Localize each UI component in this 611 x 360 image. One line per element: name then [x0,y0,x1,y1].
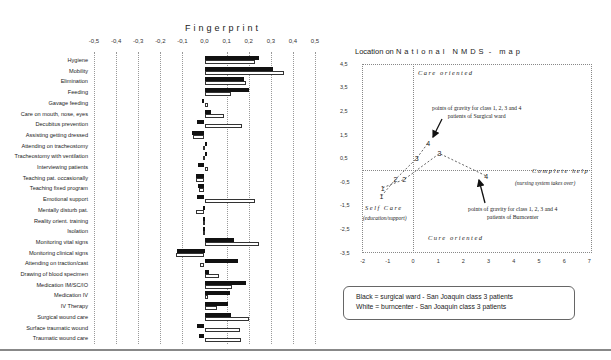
map-point-label: 4 [426,139,430,146]
map-point-label: 3 [438,150,442,157]
arrow-surgical-icon [433,119,442,137]
bottom-rule [0,349,611,351]
legend-black: Black = surgical ward - San Joaquin clas… [356,292,574,302]
legend-box: Black = surgical ward - San Joaquin clas… [343,286,575,320]
series-line-surgical [382,143,429,196]
legend-white: White = burncenter - San Joaquin class 3… [356,302,574,312]
map-point-label: 2 [402,176,406,183]
arrow-burncenter-icon [479,180,485,203]
map-point-label: 4 [484,172,488,179]
series-line-burncenter [383,153,486,187]
map-point-label: 1 [381,184,385,191]
map-point-label: 3 [415,155,419,162]
map-point-label: 1 [380,192,384,199]
map-point-label: 2 [393,176,397,183]
